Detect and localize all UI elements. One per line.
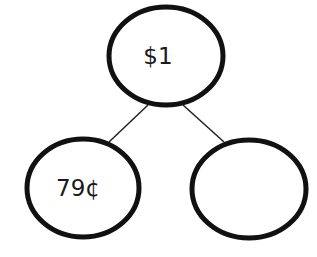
part-left-label: 79¢ bbox=[56, 175, 100, 201]
connector-right bbox=[183, 105, 224, 142]
part-node-left: 79¢ bbox=[27, 139, 139, 237]
connector-left bbox=[109, 105, 148, 142]
part-node-right[interactable] bbox=[192, 140, 306, 238]
whole-node: $1 bbox=[109, 7, 223, 105]
number-bond-diagram: $1 79¢ bbox=[0, 0, 317, 257]
whole-label: $1 bbox=[143, 43, 172, 69]
